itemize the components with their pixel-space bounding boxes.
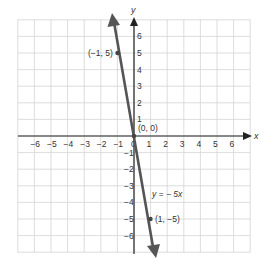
- x-tick-label: −2: [97, 139, 107, 149]
- x-tick-label: −4: [64, 139, 74, 149]
- y-tick-label: 5: [137, 48, 142, 58]
- x-tick-label: 4: [196, 139, 201, 149]
- y-tick-label: −6: [124, 231, 134, 241]
- y-tick-label: 3: [137, 81, 142, 91]
- x-axis-label: x: [253, 131, 259, 141]
- coordinate-plane: x y −6−5−4−3−2−10123456 654321−1−2−3−4−5…: [0, 0, 264, 266]
- y-tick-label: 6: [137, 31, 142, 41]
- point-label-neg1-5: (−1, 5): [88, 48, 113, 58]
- point-origin: [132, 134, 136, 138]
- point-neg1-5: [115, 51, 119, 55]
- x-tick-label: 5: [213, 139, 218, 149]
- x-tick-label: −3: [80, 139, 90, 149]
- equation-label: y = − 5x: [151, 189, 183, 199]
- x-tick-label: 2: [163, 139, 168, 149]
- x-tick-label: 1: [147, 139, 152, 149]
- x-tick-label: −1: [113, 139, 123, 149]
- x-tick-label: 3: [180, 139, 185, 149]
- x-tick-label: −6: [30, 139, 40, 149]
- point-label-origin: (0, 0): [138, 123, 158, 133]
- y-tick-label: −5: [124, 214, 134, 224]
- y-tick-label: −2: [124, 164, 134, 174]
- y-tick-label: −1: [124, 148, 134, 158]
- point-label-1-neg5: (1, −5): [155, 214, 180, 224]
- point-1-neg5: [148, 217, 152, 221]
- y-axis-label: y: [130, 5, 136, 15]
- y-tick-label: −4: [124, 197, 134, 207]
- y-tick-label: 2: [137, 98, 142, 108]
- x-tick-label: 6: [230, 139, 235, 149]
- y-tick-label: −3: [124, 181, 134, 191]
- y-tick-label: 4: [137, 65, 142, 75]
- x-tick-label: −5: [47, 139, 57, 149]
